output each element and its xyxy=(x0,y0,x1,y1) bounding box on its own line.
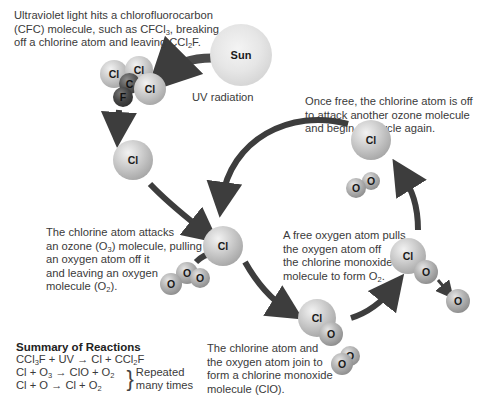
atom-label: Cl xyxy=(109,68,120,80)
atom-label: Cl xyxy=(366,134,377,146)
atom-label: F xyxy=(120,91,126,103)
o2-atom-1: O xyxy=(346,178,366,198)
equation-1: CCl3F + UV → Cl + CCl2F xyxy=(16,353,193,366)
atom-label: O xyxy=(454,295,462,307)
oxygen-release-arrow xyxy=(438,280,448,292)
free-o-atom: O xyxy=(446,289,470,313)
atom-label: Cl xyxy=(312,312,323,324)
caption-line: molecule to form O2. xyxy=(283,270,406,284)
caption-line: form a chlorine monoxide xyxy=(207,369,333,383)
sun-label: Sun xyxy=(231,49,252,61)
cycle-cl-atom: Cl xyxy=(351,120,391,160)
atom-label: O xyxy=(196,272,204,284)
caption-line: the chlorine monoxide xyxy=(283,256,406,270)
clo-o-atom-right: O xyxy=(414,260,438,284)
caption-uv-hits: Ultraviolet light hits a chlorofluorocar… xyxy=(14,9,219,50)
atom-label: O xyxy=(367,175,375,187)
equation-2: Cl + O3 → ClO + O2 xyxy=(16,366,115,379)
atom-label: Cl xyxy=(145,83,156,95)
atom-label: O xyxy=(338,358,346,370)
ozone-atom-3: O xyxy=(190,268,210,288)
ozone-atom-1: O xyxy=(160,273,182,295)
sun: Sun xyxy=(210,24,272,86)
caption-line: A free oxygen atom pulls xyxy=(283,229,406,243)
repeated-note: Repeated many times xyxy=(136,366,193,392)
atom-label: Cl xyxy=(218,240,229,252)
brace: } xyxy=(127,368,134,390)
free-cl-atom: Cl xyxy=(113,140,153,180)
attacking-cl-atom: Cl xyxy=(203,226,243,266)
caption-join: The chlorine atom and the oxygen atom jo… xyxy=(207,342,333,396)
caption-line: Once free, the chlorine atom is off xyxy=(305,95,473,109)
caption-once-free: Once free, the chlorine atom is off to a… xyxy=(305,95,473,136)
atom-label: Cl xyxy=(128,154,139,166)
atom-label: O xyxy=(167,278,175,290)
uv-arrow xyxy=(165,58,212,74)
repeated-equations: Cl + O3 → ClO + O2 Cl + O → Cl + O2 } Re… xyxy=(16,366,193,392)
cl-to-attack-arrow xyxy=(150,184,205,232)
caption-line: (CFC) molecule, such as CFCl3, breaking xyxy=(14,23,219,37)
caption-line: molecule (ClO). xyxy=(207,383,333,397)
atom-label: O xyxy=(327,328,335,340)
caption-line: the oxygen atom off xyxy=(283,243,406,257)
equation-3: Cl + O → Cl + O2 xyxy=(16,379,115,392)
caption-line: The chlorine atom attacks xyxy=(46,226,202,240)
caption-line: off a chlorine atom and leaving CCl2F. xyxy=(14,36,219,50)
repeated-line: many times xyxy=(136,379,193,392)
caption-line: to attack another ozone molecule xyxy=(305,109,473,123)
caption-line: Ultraviolet light hits a chlorofluorocar… xyxy=(14,9,219,23)
caption-line: The chlorine atom and xyxy=(207,342,333,356)
join-to-free-oxygen-arrow xyxy=(351,288,393,318)
atom-label: Cl xyxy=(403,250,414,262)
summary-of-reactions: Summary of Reactions CCl3F + UV → Cl + C… xyxy=(16,341,193,392)
o2-bottom-atom-1: O xyxy=(331,353,353,375)
cfc-cl-atom-3: Cl xyxy=(134,73,166,105)
cfc-f-atom: F xyxy=(113,87,133,107)
caption-line: an ozone (O3) molecule, pulling xyxy=(46,240,202,254)
free-oxygen-to-cl-arrow xyxy=(402,174,418,230)
summary-title: Summary of Reactions xyxy=(16,341,193,353)
atom-label: O xyxy=(352,182,360,194)
atom-label: O xyxy=(422,266,430,278)
uv-radiation-label: UV radiation xyxy=(192,91,254,105)
cfc-to-cl-arrow xyxy=(118,110,119,130)
repeated-line: Repeated xyxy=(136,366,193,379)
attack-to-join-arrow xyxy=(245,262,288,310)
caption-line: the oxygen atom join to xyxy=(207,356,333,370)
caption-free-oxygen: A free oxygen atom pulls the oxygen atom… xyxy=(283,229,406,283)
